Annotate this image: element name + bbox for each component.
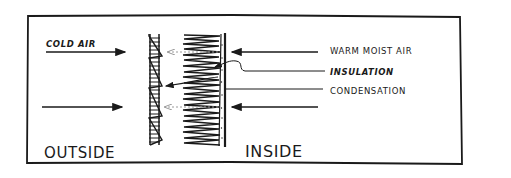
cold-air-arrows: COLD AIR bbox=[42, 39, 125, 107]
inside-label: INSIDE bbox=[245, 142, 303, 161]
leader-lines bbox=[215, 61, 325, 89]
interior-wall-icon bbox=[219, 33, 225, 147]
condensation-label: CONDENSATION bbox=[330, 86, 406, 96]
wall-condensation-diagram: COLD AIR bbox=[0, 0, 511, 178]
warm-moist-air-label: WARM MOIST AIR bbox=[330, 46, 412, 56]
insulation-label: INSULATION bbox=[330, 67, 394, 77]
siding-icon bbox=[149, 34, 162, 145]
cold-air-label: COLD AIR bbox=[46, 39, 96, 49]
outside-label: OUTSIDE bbox=[44, 144, 115, 162]
warm-air-arrows bbox=[232, 52, 318, 107]
